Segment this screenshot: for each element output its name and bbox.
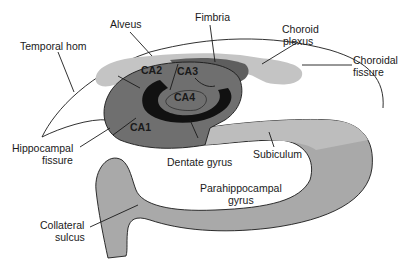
collateral-sulcus-label-2: sulcus <box>55 231 85 243</box>
ca4-label: CA4 <box>174 91 195 103</box>
fimbria-label: Fimbria <box>195 11 230 23</box>
ca1-label: CA1 <box>130 121 151 133</box>
choroid-plexus-label-2: plexus <box>283 35 313 47</box>
parahippocampal-label-2: gyrus <box>228 194 254 206</box>
temporal-horn-label: Temporal hom <box>20 40 87 52</box>
alveus-label: Alveus <box>110 18 142 30</box>
ca3-label: CA3 <box>177 65 198 77</box>
ca2-label: CA2 <box>141 64 162 76</box>
hippocampal-fissure-label-2: fissure <box>42 154 73 166</box>
choroidal-fissure-label-1: Choroidal <box>353 54 398 66</box>
hippocampal-fissure-leader <box>80 128 110 147</box>
subiculum-label: Subiculum <box>253 148 302 160</box>
temporal-horn-leader <box>58 52 74 92</box>
parahippocampal-label-1: Parahippocampal <box>200 182 282 194</box>
dentate-gyrus-label: Dentate gyrus <box>167 156 232 168</box>
alveus-leader <box>130 32 152 56</box>
hippocampal-fissure-label-1: Hippocampal <box>12 142 73 154</box>
choroid-plexus-label-1: Choroid <box>282 23 319 35</box>
collateral-sulcus-label-1: Collateral <box>40 219 84 231</box>
choroidal-fissure-label-2: fissure <box>353 66 384 78</box>
hippocampus-diagram: Alveus Fimbria Choroid plexus Choroidal … <box>0 0 410 268</box>
